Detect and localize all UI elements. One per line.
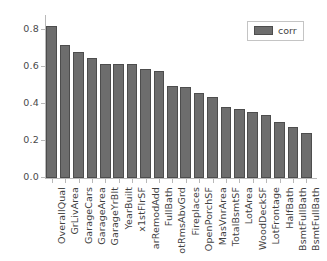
y-tick-label: 0.2 bbox=[23, 134, 39, 145]
x-tick-mark bbox=[253, 179, 254, 183]
x-tick-label-BsmtFullBath: BsmtFullBath bbox=[297, 187, 308, 251]
x-tick-label-group: OverallQualGrLivAreaGarageCarsGarageArea… bbox=[0, 185, 327, 261]
y-tick-label: 0.0 bbox=[23, 171, 39, 182]
x-tick-mark bbox=[306, 179, 307, 183]
x-tick-mark bbox=[266, 179, 267, 183]
x-tick-mark bbox=[92, 179, 93, 183]
legend-swatch-corr bbox=[254, 26, 273, 35]
bar-slot bbox=[140, 15, 151, 178]
bar-slot bbox=[234, 15, 245, 178]
x-tick-mark bbox=[213, 179, 214, 183]
x-tick-label-OverallQual: OverallQual bbox=[56, 187, 67, 244]
x-tick-label-LotFrontage: LotFrontage bbox=[270, 187, 281, 245]
bar-LotFrontage bbox=[261, 115, 272, 178]
x-tick-label-GarageYrBlt: GarageYrBlt bbox=[109, 187, 120, 245]
bar-BsmtFullBath bbox=[301, 133, 312, 178]
bar-slot bbox=[73, 15, 84, 178]
bar-MasVnrArea bbox=[207, 97, 218, 178]
x-tick-label-YearRemodAdd: arRemodAdd bbox=[150, 187, 161, 249]
x-axis-spine bbox=[45, 178, 317, 179]
x-tick-label-MasVnrArea: MasVnrArea bbox=[217, 187, 228, 245]
x-tick-label-GrLivArea: GrLivArea bbox=[69, 187, 80, 235]
y-tick-label: 0.8 bbox=[23, 23, 39, 34]
x-tick-mark bbox=[132, 179, 133, 183]
y-tick-label: 0.6 bbox=[23, 60, 39, 71]
x-tick-label-OpenPorchSF: OpenPorchSF bbox=[203, 187, 214, 251]
bar-slot bbox=[154, 15, 165, 178]
chart-legend: corr bbox=[247, 21, 304, 41]
x-tick-label-GarageArea: GarageArea bbox=[96, 187, 107, 245]
x-tick-mark bbox=[199, 179, 200, 183]
x-tick-mark bbox=[239, 179, 240, 183]
x-tick-label-TotRmsAbvGrd: otRmsAbvGrd bbox=[176, 187, 187, 254]
bar-slot bbox=[167, 15, 178, 178]
bar-slot bbox=[207, 15, 218, 178]
x-tick-label-x1stFlrSF: x1stFlrSF bbox=[136, 187, 147, 232]
bar-slot bbox=[87, 15, 98, 178]
bar-OpenPorchSF bbox=[194, 93, 205, 178]
bar-YearRemodAdd bbox=[140, 69, 151, 178]
bar-slot bbox=[113, 15, 124, 178]
bar-FullBath bbox=[154, 71, 165, 178]
x-tick-mark bbox=[186, 179, 187, 183]
x-tick-mark bbox=[52, 179, 53, 183]
bar-x1stFlrSF bbox=[127, 64, 138, 178]
x-tick-label-TotalBsmtSF: TotalBsmtSF bbox=[230, 187, 241, 246]
x-tick-label-HalfBath: HalfBath bbox=[284, 187, 295, 229]
x-tick-mark bbox=[79, 179, 80, 183]
bar-GarageArea bbox=[87, 58, 98, 178]
x-tick-label-FullBath: FullBath bbox=[163, 187, 174, 226]
bar-HalfBath bbox=[274, 122, 285, 178]
bar-BsmtFullBath bbox=[288, 127, 299, 178]
x-tick-mark bbox=[226, 179, 227, 183]
bar-YearBuilt bbox=[113, 64, 124, 178]
bar-GarageCars bbox=[73, 52, 84, 178]
x-tick-label-WoodDeckSF: WoodDeckSF bbox=[257, 187, 268, 250]
x-tick-label-BsmtFullBath: BsmtFullBath bbox=[310, 187, 321, 251]
bar-slot bbox=[100, 15, 111, 178]
bar-GarageYrBlt bbox=[100, 64, 111, 178]
x-tick-label-LotArea: LotArea bbox=[243, 187, 254, 224]
x-tick-mark bbox=[293, 179, 294, 183]
x-tick-mark bbox=[119, 179, 120, 183]
x-tick-mark bbox=[105, 179, 106, 183]
bar-OverallQual bbox=[46, 26, 57, 178]
x-tick-mark bbox=[172, 179, 173, 183]
bar-GrLivArea bbox=[60, 45, 71, 178]
x-tick-label-YearBuilt: YearBuilt bbox=[123, 187, 134, 230]
bar-slot bbox=[194, 15, 205, 178]
bar-slot bbox=[127, 15, 138, 178]
bar-TotalBsmtSF bbox=[221, 107, 232, 178]
legend-label-corr: corr bbox=[278, 26, 297, 36]
bar-slot bbox=[46, 15, 57, 178]
bar-slot bbox=[221, 15, 232, 178]
bar-LotArea bbox=[234, 109, 245, 178]
bar-WoodDeckSF bbox=[247, 112, 258, 178]
bar-slot bbox=[60, 15, 71, 178]
x-tick-mark bbox=[280, 179, 281, 183]
y-tick-label: 0.4 bbox=[23, 97, 39, 108]
x-tick-mark bbox=[65, 179, 66, 183]
x-tick-label-GarageCars: GarageCars bbox=[83, 187, 94, 244]
x-tick-mark bbox=[159, 179, 160, 183]
bar-chart-figure: 0.00.20.40.60.8 OverallQualGrLivAreaGara… bbox=[0, 0, 327, 261]
bar-slot bbox=[180, 15, 191, 178]
x-tick-label-Fireplaces: Fireplaces bbox=[190, 187, 201, 235]
bar-TotRmsAbvGrd bbox=[167, 86, 178, 178]
x-tick-mark bbox=[146, 179, 147, 183]
bar-Fireplaces bbox=[180, 87, 191, 178]
